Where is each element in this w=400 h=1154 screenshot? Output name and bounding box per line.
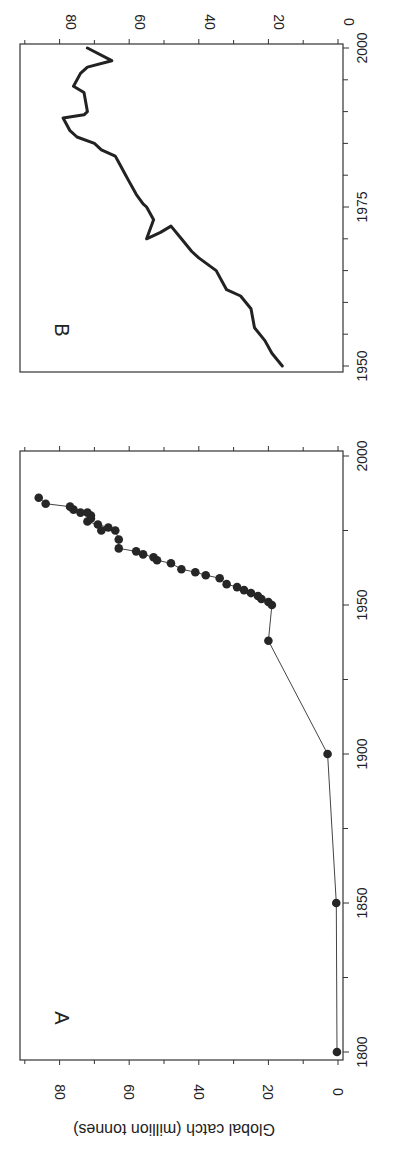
data-point — [323, 750, 332, 759]
plot-frame — [20, 451, 343, 1060]
series-line — [39, 498, 337, 1052]
panel-letter: A — [51, 1011, 73, 1025]
year-tick-label: 1900 — [354, 738, 370, 769]
data-point — [215, 574, 224, 583]
data-point — [94, 520, 103, 529]
value-tick-label: 60 — [132, 14, 148, 30]
value-tick-label: 0 — [341, 18, 357, 26]
panel-b: 020406080195019752000B — [20, 14, 370, 381]
data-point — [233, 583, 242, 592]
data-point — [41, 499, 50, 508]
year-tick-label: 2000 — [354, 32, 370, 63]
year-tick-label: 1800 — [354, 1036, 370, 1067]
value-tick-label: 40 — [191, 1084, 207, 1100]
y-axis-label: Global catch (million tonnes) — [73, 1121, 275, 1138]
chart-canvas: 02040608018001850190019502000A 020406080… — [0, 0, 400, 1154]
data-point — [167, 559, 176, 568]
year-tick-label: 1950 — [354, 589, 370, 620]
data-point — [222, 580, 231, 589]
y-axis-title: Global catch (million tonnes) — [73, 1121, 275, 1138]
series-line — [63, 48, 282, 366]
panel-a: 02040608018001850190019502000A — [20, 440, 370, 1100]
data-point — [333, 1048, 342, 1057]
value-tick-label: 20 — [260, 1084, 276, 1100]
value-tick-label: 80 — [52, 1084, 68, 1100]
figure: 02040608018001850190019502000A 020406080… — [0, 0, 400, 1154]
data-point — [114, 544, 123, 553]
data-point — [191, 568, 200, 577]
data-point — [264, 636, 273, 645]
data-point — [201, 571, 210, 580]
data-point — [332, 899, 341, 908]
panel-letter: B — [51, 323, 73, 336]
value-tick-label: 60 — [121, 1084, 137, 1100]
year-tick-label: 1975 — [354, 191, 370, 222]
value-tick-label: 20 — [271, 14, 287, 30]
year-tick-label: 1850 — [354, 887, 370, 918]
data-point — [34, 493, 43, 502]
value-tick-label: 0 — [330, 1088, 346, 1096]
year-tick-label: 2000 — [354, 440, 370, 471]
data-point — [177, 565, 186, 574]
value-tick-label: 40 — [202, 14, 218, 30]
year-tick-label: 1950 — [354, 350, 370, 381]
value-tick-label: 80 — [63, 14, 79, 30]
data-point — [66, 502, 75, 511]
data-point — [132, 547, 141, 556]
data-point — [149, 553, 158, 562]
data-point — [104, 523, 113, 532]
data-point — [114, 535, 123, 544]
